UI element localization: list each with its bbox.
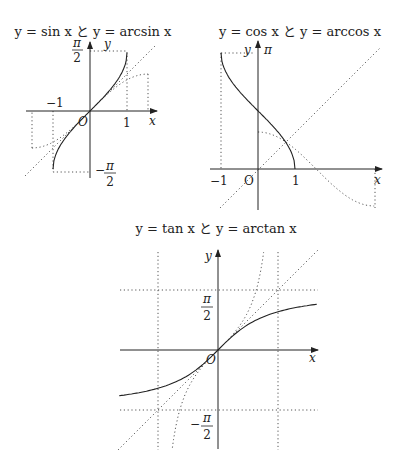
- arccos-guide: [221, 53, 254, 169]
- tick-minus-sign: −: [190, 417, 200, 431]
- x-axis-label: x: [374, 173, 381, 187]
- tick-neg-pi-over-2-num: π: [105, 159, 115, 173]
- y-axis-label: y: [243, 43, 251, 57]
- tick-1: 1: [123, 116, 131, 130]
- tick-pi-over-2-num: π: [72, 36, 82, 50]
- inverse-trig-figure: y = sin x と y = arcsin x y x O −1 1 π 2 …: [0, 0, 397, 466]
- graph-sin-arcsin: y = sin x と y = arcsin x y x O −1 1 π 2 …: [14, 24, 173, 189]
- graph1-title: y = sin x と y = arcsin x: [14, 24, 173, 39]
- tick-1: 1: [292, 174, 300, 188]
- tick-neg1: −1: [210, 174, 228, 188]
- tick-pi-over-2-den: 2: [203, 309, 211, 323]
- graph-tan-arctan: y = tan x と y = arctan x y x O π 2 − π 2: [118, 221, 318, 450]
- arcsin-guide-top: [90, 51, 127, 111]
- x-axis-label: x: [309, 351, 316, 365]
- graph2-title: y = cos x と y = arccos x: [218, 24, 382, 39]
- y-axis-label: y: [204, 249, 212, 263]
- tick-pi-over-2-den: 2: [73, 51, 81, 65]
- tick-minus-sign: −: [95, 163, 105, 177]
- tick-neg-pi-over-2-den: 2: [106, 175, 114, 189]
- y-axis-label: y: [103, 37, 111, 51]
- origin-label: O: [78, 115, 88, 129]
- graph3-title: y = tan x と y = arctan x: [134, 221, 297, 236]
- tick-pi: π: [263, 43, 273, 57]
- tick-neg-pi-over-2-den: 2: [203, 428, 211, 442]
- x-axis-label: x: [149, 114, 156, 128]
- tick-neg-pi-over-2-num: π: [202, 411, 212, 425]
- tick-pi-over-2-num: π: [202, 292, 212, 306]
- origin-label: O: [244, 174, 254, 188]
- tick-neg1: −1: [46, 96, 64, 110]
- graph-cos-arccos: y = cos x と y = arccos x y π x O −1 1: [210, 24, 382, 210]
- origin-label: O: [206, 353, 216, 367]
